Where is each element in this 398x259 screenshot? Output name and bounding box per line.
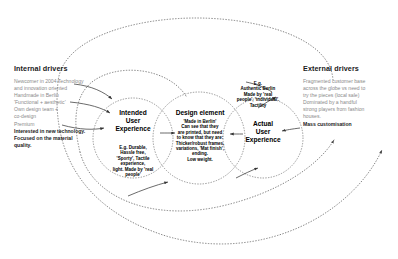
internal-drivers-body: Newcomer in 2004 Technology and innovati… bbox=[14, 78, 106, 149]
external-drivers-line: Fragmented customer base bbox=[303, 78, 395, 85]
internal-drivers-line: co-design bbox=[14, 113, 106, 120]
internal-drivers-line: Newcomer in 2004 Technology bbox=[14, 78, 106, 85]
arrow-bottom-loop-return bbox=[128, 182, 168, 196]
node-examples-design-element: 'Made in Berlin' Can see that they are p… bbox=[163, 119, 237, 162]
node-label-actual-user-experience: Actual User Experience bbox=[232, 120, 294, 145]
internal-drivers-line: 'Functional + aesthetic' bbox=[14, 99, 106, 106]
internal-drivers-line: Premium bbox=[14, 121, 106, 128]
external-drivers-line: strong players from fashion bbox=[303, 106, 395, 113]
internal-drivers-title: Internal drivers bbox=[14, 64, 106, 73]
diagram-canvas: Internal drivers Newcomer in 2004 Techno… bbox=[0, 0, 398, 259]
external-drivers-body: Fragmented customer base across the glob… bbox=[303, 78, 395, 128]
node-label-design-element: Design element bbox=[167, 109, 233, 117]
internal-drivers-emphasis: quality. bbox=[14, 142, 106, 149]
node-examples-intended-user-experience: E.g. Durable, Hassle free, 'Sporty', Tac… bbox=[99, 145, 167, 177]
node-label-intended-user-experience: Intended User Experience bbox=[101, 109, 165, 134]
internal-drivers-line: and innovation oriented bbox=[14, 85, 106, 92]
external-drivers-title: External drivers bbox=[303, 64, 395, 73]
external-drivers-line: Dominated by a handful bbox=[303, 99, 395, 106]
internal-drivers-line: Handmade in Berlin bbox=[14, 92, 106, 99]
internal-drivers-block: Internal drivers Newcomer in 2004 Techno… bbox=[14, 64, 106, 149]
internal-drivers-emphasis: Focused on the material bbox=[14, 135, 106, 142]
external-drivers-line: across the globe vs need to bbox=[303, 85, 395, 92]
internal-drivers-emphasis: Interested in new technology. bbox=[14, 128, 106, 135]
external-drivers-line: try the pieces (local sale) bbox=[303, 92, 395, 99]
internal-drivers-line: Own design team + bbox=[14, 106, 106, 113]
arrow-design-loop-return bbox=[236, 168, 258, 178]
node-examples-actual-user-experience: E.g. Authentic Berlin Made by 'real peop… bbox=[222, 81, 294, 108]
external-drivers-emphasis: Mass customisation bbox=[303, 121, 395, 128]
external-drivers-block: External drivers Fragmented customer bas… bbox=[303, 64, 395, 128]
external-drivers-line: houses. bbox=[303, 113, 395, 120]
